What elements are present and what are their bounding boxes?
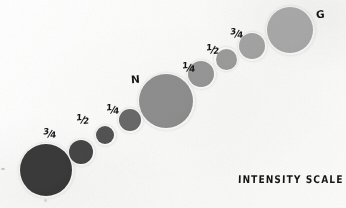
fraction-label: 1/2	[75, 113, 89, 127]
intensity-patch-label: 3/4	[230, 24, 243, 40]
intensity-patch-label: 1/4	[106, 100, 119, 116]
intensity-patch-label: 1/4	[182, 58, 195, 74]
intensity-patch	[139, 74, 193, 128]
intensity-patch	[69, 140, 93, 164]
intensity-patch	[20, 144, 72, 196]
paper-speck	[44, 199, 47, 202]
fraction-label: 1/4	[181, 61, 195, 75]
intensity-patch-label: G	[316, 5, 325, 21]
letter-label: G	[316, 9, 326, 20]
fraction-label: 1/2	[205, 43, 219, 57]
intensity-patch	[96, 126, 114, 144]
intensity-patch-label: 1/2	[206, 40, 219, 56]
paper-speck	[1, 168, 5, 170]
intensity-patch	[119, 109, 141, 131]
page-title: INTENSITY SCALE	[238, 173, 344, 185]
intensity-patch-label: 1/2	[76, 110, 89, 126]
letter-label: N	[131, 74, 141, 85]
fraction-label: 3/4	[42, 127, 56, 141]
intensity-scale-sheet: 3/41/21/4N1/41/23/4G INTENSITY SCALE	[0, 0, 346, 208]
intensity-patch-label: N	[131, 70, 140, 86]
fraction-label: 1/4	[105, 103, 119, 117]
intensity-patch	[267, 7, 313, 53]
fraction-label: 3/4	[229, 27, 243, 41]
intensity-patch-label: 3/4	[43, 124, 56, 140]
